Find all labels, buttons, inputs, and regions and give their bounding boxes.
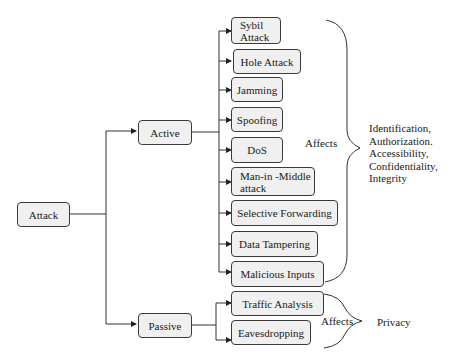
passive-affects-label: Affects [321,315,353,328]
privacy-label: Privacy [377,316,411,329]
active-affects-label: Affects [305,137,337,150]
malicious-inputs-node: Malicious Inputs [231,261,324,287]
target-identification: Identification, [369,122,438,135]
jamming-node: Jamming [231,77,283,102]
target-authorization: Authorization. [369,135,438,148]
spoofing-node: Spoofing [231,107,283,132]
security-properties-list: Identification, Authorization. Accessibi… [369,122,438,185]
selective-forwarding-node: Selective Forwarding [231,200,338,226]
target-confidentiality: Confidentiality, [369,160,438,173]
target-integrity: Integrity [369,172,438,185]
hole-attack-node: Hole Attack [233,49,301,74]
passive-category-node: Passive [138,313,192,338]
target-accessibility: Accessibility, [369,147,438,160]
attack-root-node: Attack [17,202,70,227]
traffic-analysis-node: Traffic Analysis [231,291,324,316]
eavesdropping-node: Eavesdropping [231,320,311,345]
man-in-middle-node: Man-in -Middle attack [231,167,315,196]
data-tampering-node: Data Tampering [231,231,318,257]
active-category-node: Active [138,120,192,145]
sybil-attack-node: Sybil Attack [231,17,281,44]
dos-node: DoS [231,137,283,163]
